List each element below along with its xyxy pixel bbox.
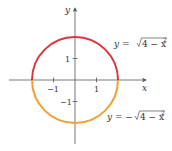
tick-label-y-pos1: 1 — [65, 55, 70, 64]
svg-text:2: 2 — [163, 36, 167, 43]
svg-text:y = −: y = − — [106, 112, 133, 122]
svg-text:y =: y = — [113, 39, 130, 49]
tick-label-x-neg1: −1 — [47, 85, 59, 94]
upper-equation-label: y = 4 − x 2 — [113, 36, 167, 49]
y-axis-label: y — [64, 5, 71, 15]
semicircle-chart: y x −1 1 1 −1 y = 4 − x 2 y = − 4 − x 2 — [0, 0, 172, 151]
tick-label-x-pos1: 1 — [94, 85, 99, 94]
svg-text:2: 2 — [161, 109, 165, 116]
tick-label-y-neg1: −1 — [60, 98, 72, 107]
x-axis-label: x — [142, 83, 147, 93]
lower-equation-label: y = − 4 − x 2 — [106, 109, 165, 122]
